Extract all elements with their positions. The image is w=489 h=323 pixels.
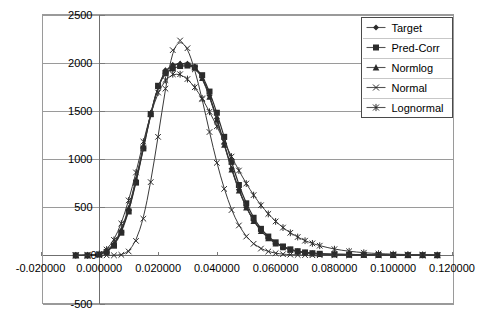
y-tick-label: 2000 bbox=[68, 57, 92, 69]
y-tick-label: 1500 bbox=[68, 105, 92, 117]
y-tick-label: 1000 bbox=[68, 153, 92, 165]
marker-star bbox=[273, 218, 279, 225]
marker-star bbox=[265, 211, 271, 218]
marker-star bbox=[251, 192, 257, 199]
marker-star bbox=[288, 229, 294, 236]
legend-item-label: Normlog bbox=[392, 62, 434, 74]
marker-cross bbox=[258, 246, 264, 252]
x-tick-label: 0.060000 bbox=[253, 262, 299, 274]
marker-star bbox=[236, 167, 242, 174]
marker-cross bbox=[170, 47, 176, 53]
legend-item-label: Pred-Corr bbox=[392, 42, 441, 54]
marker-star bbox=[280, 224, 286, 231]
marker-star bbox=[185, 76, 191, 83]
marker-star bbox=[302, 237, 308, 244]
y-tick-label: 2500 bbox=[68, 9, 92, 21]
marker-star bbox=[192, 84, 198, 91]
marker-square bbox=[373, 45, 379, 51]
x-tick-label: -0.020000 bbox=[16, 262, 66, 274]
marker-cross bbox=[251, 241, 257, 247]
marker-star bbox=[295, 234, 301, 241]
marker-cross bbox=[236, 223, 242, 229]
marker-star bbox=[199, 95, 205, 102]
chart-legend: TargetPred-CorrNormlogNormalLognormal bbox=[362, 18, 453, 118]
marker-star bbox=[243, 180, 249, 187]
x-tick-label: 0.080000 bbox=[311, 262, 357, 274]
marker-star bbox=[310, 240, 316, 247]
x-axis-tick-labels: -0.0200000.0000000.0200000.0400000.06000… bbox=[16, 262, 475, 274]
marker-cross bbox=[126, 249, 132, 255]
x-tick-label: 0.000000 bbox=[76, 262, 122, 274]
x-tick-label: 0.120000 bbox=[429, 262, 475, 274]
chart-plot: -50050010001500200025000 -0.0200000.0000… bbox=[0, 0, 489, 323]
y-tick-label-zero: 0 bbox=[90, 249, 96, 261]
marker-cross bbox=[243, 234, 249, 240]
x-tick-label: 0.100000 bbox=[370, 262, 416, 274]
legend-item-label: Target bbox=[392, 22, 423, 34]
chart-container: -50050010001500200025000 -0.0200000.0000… bbox=[0, 0, 489, 323]
x-tick-label: 0.020000 bbox=[135, 262, 181, 274]
y-tick-label: 500 bbox=[74, 201, 92, 213]
y-tick-label: -500 bbox=[70, 298, 92, 310]
legend-item-label: Lognormal bbox=[392, 102, 444, 114]
marker-star bbox=[258, 202, 264, 209]
x-tick-label: 0.040000 bbox=[194, 262, 240, 274]
legend-item-label: Normal bbox=[392, 82, 427, 94]
